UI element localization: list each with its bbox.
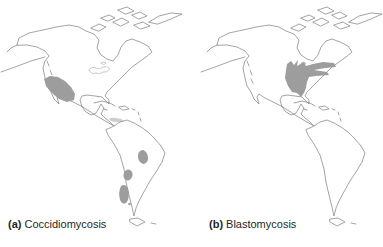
panel-b-caption: (b)Blastomycosis [209,218,296,231]
shaded-region-brazil [137,149,150,165]
coastline-layer [201,7,382,226]
americas-map-coccidiomycosis [0,0,191,247]
panel-b-label: (b) [209,218,223,230]
shaded-region-sw-us-mexico [44,76,75,102]
shaded-regions-blastomycosis [285,60,336,97]
fungal-distribution-maps-figure: (a)Coccidiomycosis (b)Blastomycosis [0,0,383,247]
panel-a-caption: (a)Coccidiomycosis [8,218,106,231]
lakes-layer [89,62,110,74]
shaded-region-argentina-dot [128,203,131,206]
americas-map-blastomycosis [192,0,383,247]
coastline-layer [1,7,182,226]
panel-a-label: (a) [8,218,21,230]
panel-a-title: Coccidiomycosis [24,218,106,230]
shaded-regions-coccidiomycosis [44,76,149,205]
map-panel-b: (b)Blastomycosis [192,0,383,247]
shaded-region-argentina [119,185,129,204]
panel-b-title: Blastomycosis [226,218,296,230]
map-panel-a: (a)Coccidiomycosis [0,0,191,247]
shaded-region-central-eastern-us [285,60,336,97]
